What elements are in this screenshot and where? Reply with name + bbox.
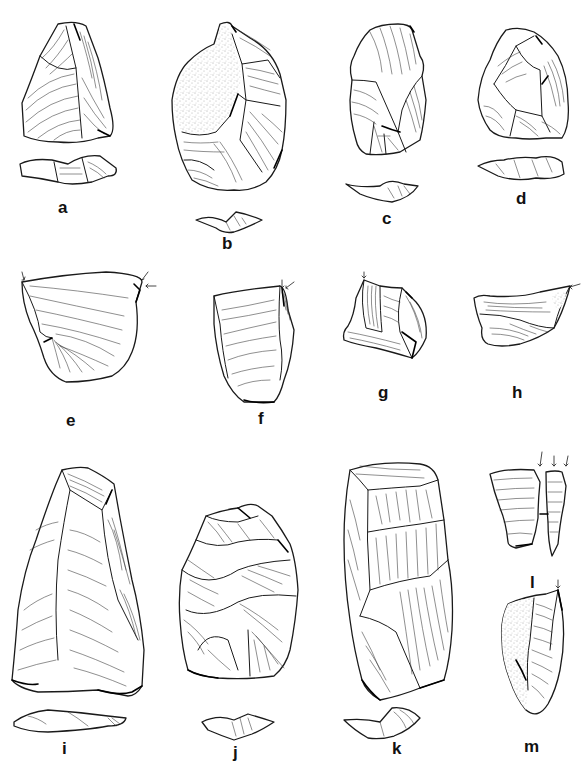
artifact-i: i xyxy=(8,460,148,740)
artifact-h-dorsal-drawing xyxy=(470,284,580,404)
burin-arrow-icon xyxy=(556,580,560,588)
artifact-k: k xyxy=(340,460,470,750)
artifact-e-dorsal-drawing xyxy=(16,272,156,432)
artifact-g: g xyxy=(340,272,440,402)
artifact-h: h xyxy=(470,284,580,404)
artifact-label-h: h xyxy=(512,384,522,401)
artifact-j-profile xyxy=(202,714,274,740)
burin-arrow-icon xyxy=(362,272,366,278)
artifact-f-dorsal-drawing xyxy=(208,280,308,430)
burin-arrow-icon xyxy=(552,456,556,466)
artifact-label-c: c xyxy=(382,210,391,227)
artifact-d: d xyxy=(476,26,576,206)
artifact-c: c xyxy=(340,20,450,210)
artifact-g-dorsal-drawing xyxy=(340,272,440,402)
burin-arrow-icon xyxy=(570,284,580,289)
burin-arrow-icon xyxy=(286,282,294,289)
artifact-k-dorsal-drawing xyxy=(340,460,470,750)
burin-arrow-icon xyxy=(538,452,542,466)
artifact-b: b xyxy=(170,20,290,250)
artifact-b-profile xyxy=(196,212,262,233)
artifact-c-profile xyxy=(346,181,418,202)
artifact-label-e: e xyxy=(66,412,75,429)
artifact-label-m: m xyxy=(524,738,539,755)
artifact-d-dorsal-drawing xyxy=(476,26,576,206)
artifact-a-dorsal-drawing xyxy=(18,18,128,198)
artifact-m-dorsal-drawing xyxy=(486,580,586,760)
artifact-d-profile xyxy=(478,157,564,180)
artifact-label-a: a xyxy=(58,199,67,216)
artifact-e: e xyxy=(16,272,156,432)
artifact-label-d: d xyxy=(516,190,526,207)
artifact-label-b: b xyxy=(222,235,232,252)
artifact-l-spall xyxy=(546,471,566,556)
burin-arrow-icon xyxy=(22,272,25,280)
burin-arrow-icon xyxy=(146,284,156,288)
artifact-f: f xyxy=(208,280,308,430)
artifact-label-f: f xyxy=(258,410,264,427)
artifact-label-i: i xyxy=(62,740,67,757)
artifact-j-dorsal-drawing xyxy=(178,500,308,760)
artifact-b-dorsal-drawing xyxy=(170,20,290,250)
artifact-label-j: j xyxy=(233,744,238,761)
artifact-a: a xyxy=(18,18,128,198)
burin-arrow-icon xyxy=(280,280,284,288)
artifact-c-dorsal-drawing xyxy=(340,20,450,210)
burin-arrow-icon xyxy=(140,272,148,280)
artifact-label-k: k xyxy=(392,740,401,757)
artifact-a-profile xyxy=(20,156,116,184)
artifact-label-g: g xyxy=(378,384,388,401)
artifact-j: j xyxy=(178,500,308,760)
artifact-m: m xyxy=(486,580,586,760)
artifact-k-profile xyxy=(344,708,420,739)
burin-arrow-icon xyxy=(564,456,568,466)
artifact-i-dorsal-drawing xyxy=(8,460,148,740)
